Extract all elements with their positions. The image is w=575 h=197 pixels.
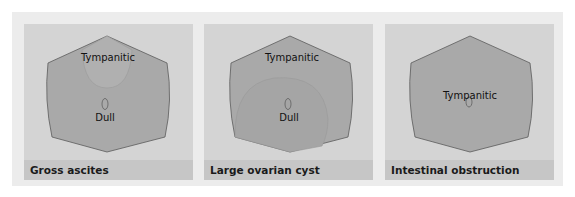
abdomen-diagram [385, 24, 554, 180]
dull-label: Dull [279, 112, 299, 123]
panel-caption: Large ovarian cyst [204, 160, 373, 180]
panel-caption: Intestinal obstruction [385, 160, 554, 180]
tympanitic-label: Tympanitic [265, 52, 319, 63]
tympanitic-label: Tympanitic [443, 90, 497, 101]
panel-caption: Gross ascites [24, 160, 193, 180]
panel-large-ovarian-cyst: Tympanitic Dull Large ovarian cyst [204, 24, 373, 180]
tympanitic-label: Tympanitic [81, 52, 135, 63]
abdomen-diagram [24, 24, 193, 180]
abdomen-diagram [204, 24, 373, 180]
panel-gross-ascites: Tympanitic Dull Gross ascites [24, 24, 193, 180]
panel-intestinal-obstruction: Tympanitic Intestinal obstruction [385, 24, 554, 180]
dull-label: Dull [95, 112, 115, 123]
